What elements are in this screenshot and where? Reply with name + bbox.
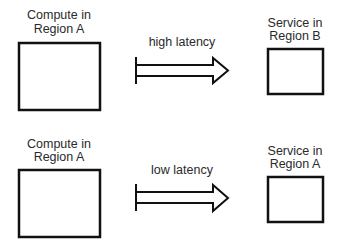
- double-arrow-icon: [136, 184, 228, 211]
- source-label-line1: Compute in: [27, 8, 91, 22]
- compute-box: [19, 43, 100, 110]
- target-label-line2: Region B: [269, 29, 320, 43]
- target-label-line2: Region A: [270, 157, 321, 171]
- source-label-line1: Compute in: [27, 137, 91, 151]
- latency-diagram: Compute in Region A high latency Service…: [0, 0, 341, 248]
- service-box: [268, 49, 323, 94]
- double-arrow-icon: [136, 57, 228, 84]
- compute-box: [19, 170, 100, 237]
- service-box: [268, 177, 323, 222]
- source-label-line2: Region A: [34, 22, 85, 36]
- row-same-region: Compute in Region A low latency Service …: [19, 137, 323, 237]
- arrow-label: high latency: [149, 35, 216, 49]
- target-label-line1: Service in: [268, 144, 323, 158]
- source-label-line2: Region A: [34, 150, 85, 164]
- row-cross-region: Compute in Region A high latency Service…: [19, 8, 323, 110]
- target-label-line1: Service in: [268, 16, 323, 30]
- arrow-label: low latency: [151, 163, 214, 177]
